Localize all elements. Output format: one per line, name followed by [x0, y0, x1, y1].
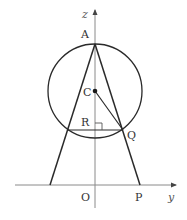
- right-angle-marker: [95, 123, 102, 130]
- point-C: [93, 89, 98, 94]
- z-axis-label: z: [81, 8, 88, 21]
- cone-sphere-diagram: z A C R Q O P y: [0, 0, 187, 220]
- cone-left-side: [50, 44, 95, 185]
- cone-right-side-AP: [95, 44, 140, 185]
- point-A-label: A: [80, 28, 90, 41]
- origin-O-label: O: [81, 191, 90, 204]
- point-C-label: C: [83, 86, 91, 99]
- segment-CQ: [95, 91, 123, 130]
- point-P-label: P: [135, 191, 143, 204]
- y-axis-label: y: [167, 191, 175, 204]
- point-R-label: R: [81, 116, 90, 129]
- point-Q-label: Q: [127, 129, 136, 142]
